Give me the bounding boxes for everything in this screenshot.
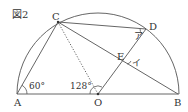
label-E: E [117,51,124,62]
angle-a-label: ア [134,31,143,41]
label-O: O [94,97,102,108]
angle-i-arc [127,61,131,64]
label-B: B [174,97,181,108]
angle-i-label: イ [132,58,141,68]
point-O-dot [97,93,100,96]
angle-A-arc [22,85,27,94]
angle-COA-label: 128° [70,81,92,91]
angle-COA-arc [90,86,102,94]
angle-A-label: 60° [29,81,45,91]
label-A: A [13,97,22,108]
figure-title: 図2 [12,9,28,20]
chord-CD [58,22,146,29]
label-D: D [149,21,157,32]
label-C: C [52,11,60,22]
geometry-figure: 図2 A B C D E O 60° 128° ア イ [0,0,188,112]
